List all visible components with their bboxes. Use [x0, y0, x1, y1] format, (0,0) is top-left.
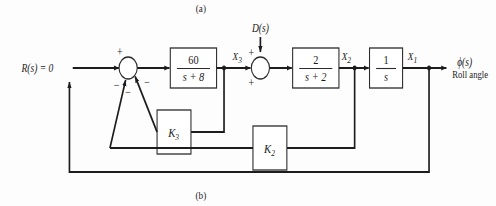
actuator-numerator: 60: [188, 53, 199, 66]
x3-label: X3: [232, 50, 242, 65]
sign-k3-feedback-minus: −: [144, 75, 150, 88]
sign-forward-plus: +: [249, 76, 255, 89]
integrator-denominator: s: [384, 70, 389, 83]
roll-rate-block: 2 s + 2: [293, 48, 339, 88]
figure-container: (a) (b) R(s) = 0 + − − − 60 s + 8 X3 D(s…: [0, 0, 496, 206]
caption-b: (b): [196, 189, 207, 202]
x1-label: X1: [407, 50, 417, 65]
output-description: Roll angle: [452, 68, 488, 80]
caption-a: (a): [196, 2, 206, 15]
reference-input-label: R(s) = 0: [21, 62, 54, 75]
gain-k2-block: K2: [253, 126, 287, 170]
sign-reference-plus: +: [117, 45, 123, 58]
block-diagram: (a) (b) R(s) = 0 + − − − 60 s + 8 X3 D(s…: [0, 0, 496, 206]
roll-rate-denominator: s + 2: [305, 70, 327, 83]
disturbance-label: D(s): [251, 22, 269, 35]
error-summing-junction: [119, 57, 137, 79]
sign-disturbance-plus: +: [249, 46, 255, 59]
sign-outer-feedback-minus: −: [114, 78, 120, 91]
sign-k2-feedback-minus: −: [125, 85, 131, 98]
roll-rate-numerator: 2: [313, 53, 318, 66]
actuator-block: 60 s + 8: [170, 48, 216, 88]
actuator-denominator: s + 8: [183, 70, 205, 83]
integrator-numerator: 1: [383, 53, 388, 66]
x2-label: X2: [341, 50, 351, 65]
integrator-block: 1 s: [370, 48, 403, 88]
